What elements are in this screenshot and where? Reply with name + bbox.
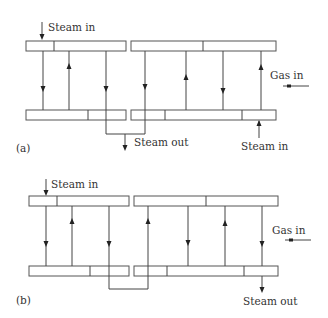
gas-in-label: Gas in xyxy=(270,69,304,81)
arrow-down-icon xyxy=(104,86,109,92)
arrow-up-icon xyxy=(259,64,264,70)
steam-in-bottom-label: Steam in xyxy=(241,140,289,152)
arrow-down-icon xyxy=(260,287,265,293)
arrow-down-icon xyxy=(107,241,112,247)
bottom-header-right xyxy=(134,266,278,276)
gas-in-label: Gas in xyxy=(272,224,306,236)
bottom-header-right xyxy=(131,110,276,120)
tubes-b xyxy=(44,206,265,289)
arrow-down-icon xyxy=(221,88,226,94)
top-header-left xyxy=(26,41,126,51)
arrow-down-icon xyxy=(186,240,191,246)
arrow-down-icon xyxy=(44,241,49,247)
tubes-a xyxy=(41,51,264,134)
arrow-down-icon xyxy=(143,84,148,90)
arrow-up-icon xyxy=(223,220,228,226)
steam-in-top-label: Steam in xyxy=(51,178,99,190)
diagram-a: Steam in xyxy=(16,21,309,154)
arrow-down-icon xyxy=(123,145,128,151)
gas-in-marker-icon xyxy=(287,85,291,88)
diagram-label-a: (a) xyxy=(16,142,30,154)
arrow-up-icon xyxy=(67,63,72,69)
arrow-up-icon xyxy=(70,218,75,224)
diagram-label-b: (b) xyxy=(16,294,31,306)
arrow-up-icon xyxy=(184,74,189,80)
arrow-up-icon xyxy=(146,218,151,224)
steam-out-label: Steam out xyxy=(243,295,298,307)
diagram-b: Steam in xyxy=(16,178,311,307)
bottom-header-left xyxy=(26,110,126,120)
steam-in-top-label: Steam in xyxy=(48,21,96,33)
bottom-header-left xyxy=(29,266,129,276)
arrow-down-icon xyxy=(260,241,265,247)
top-header-left xyxy=(29,196,129,206)
steam-out-label: Steam out xyxy=(134,136,189,148)
arrow-down-icon xyxy=(40,34,45,40)
arrow-down-icon xyxy=(44,190,49,196)
arrow-down-icon xyxy=(41,86,46,92)
heat-exchanger-diagram: Steam in xyxy=(0,0,328,318)
arrow-up-icon xyxy=(257,120,262,126)
gas-in-marker-icon xyxy=(289,239,293,242)
